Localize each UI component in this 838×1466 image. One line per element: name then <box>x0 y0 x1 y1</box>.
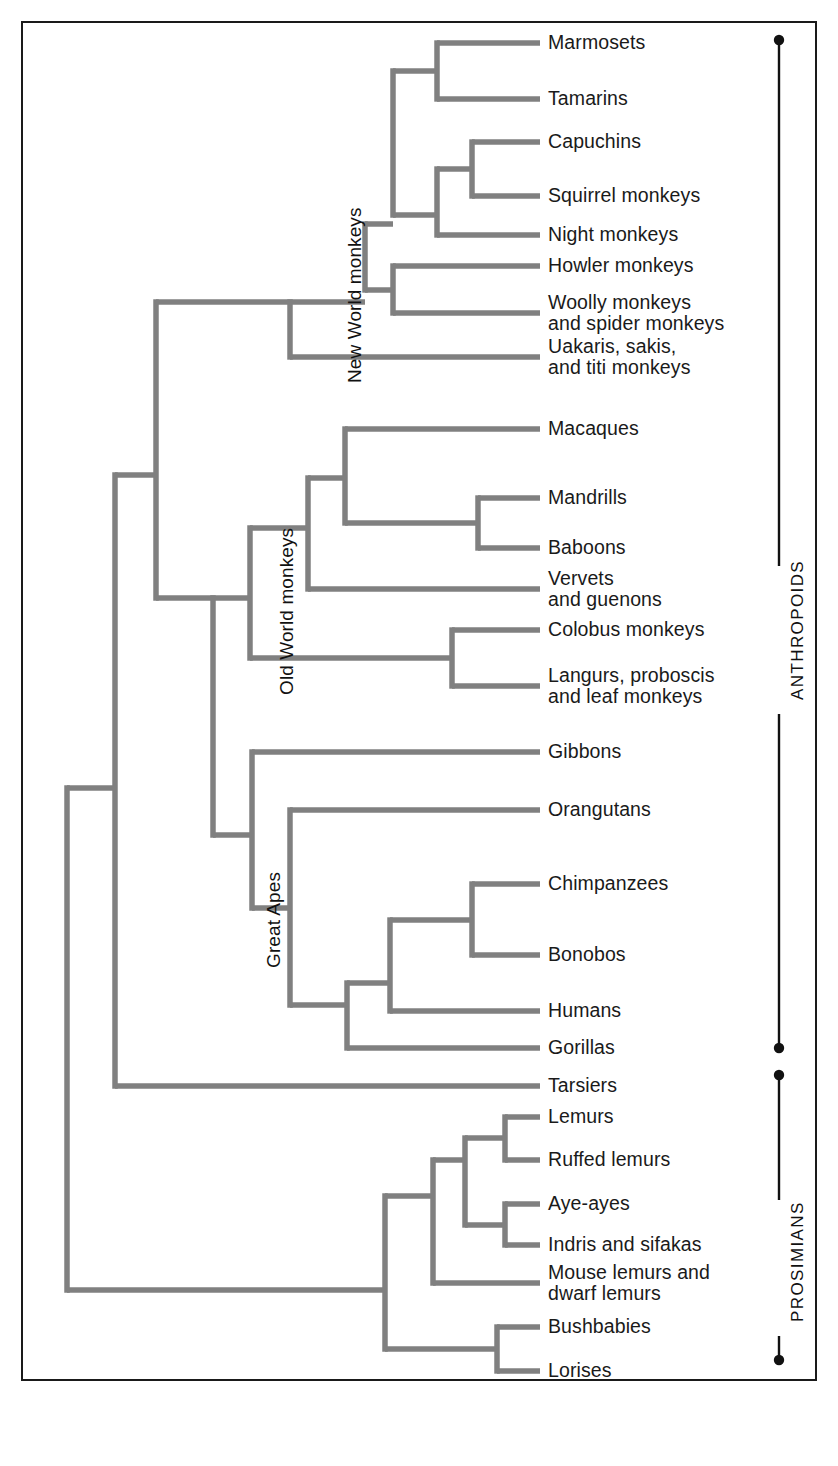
bracket-endpoint-dot-prosimians-top <box>774 1070 784 1080</box>
leaf-label-colobus-monkeys: Colobus monkeys <box>548 619 705 640</box>
leaf-label-bonobos: Bonobos <box>548 944 626 965</box>
leaf-label-baboons: Baboons <box>548 537 626 558</box>
bracket-label-gap-prosimians <box>770 1200 788 1336</box>
bracket-endpoint-dot-anthropoids-bottom <box>774 1043 784 1053</box>
leaf-label-bushbabies: Bushbabies <box>548 1316 651 1337</box>
phylogenetic-tree-lines <box>0 0 838 1466</box>
figure-page: MarmosetsTamarinsCapuchinsSquirrel monke… <box>0 0 838 1466</box>
leaf-label-macaques: Macaques <box>548 418 639 439</box>
leaf-label-squirrel-monkeys: Squirrel monkeys <box>548 185 700 206</box>
bracket-label-gap-anthropoids <box>770 566 788 714</box>
leaf-label-woolly-monkeys: Woolly monkeys and spider monkeys <box>548 292 724 334</box>
leaf-label-tamarins: Tamarins <box>548 88 628 109</box>
leaf-label-uakaris: Uakaris, sakis, and titi monkeys <box>548 336 691 378</box>
leaf-label-marmosets: Marmosets <box>548 32 645 53</box>
leaf-label-lorises: Lorises <box>548 1360 612 1381</box>
clade-label-old-world-monkeys: Old World monkeys <box>276 528 298 695</box>
leaf-label-mouse-lemurs: Mouse lemurs and dwarf lemurs <box>548 1262 710 1304</box>
leaf-label-lemurs: Lemurs <box>548 1106 614 1127</box>
leaf-label-chimpanzees: Chimpanzees <box>548 873 668 894</box>
leaf-label-orangutans: Orangutans <box>548 799 651 820</box>
leaf-label-tarsiers: Tarsiers <box>548 1075 617 1096</box>
leaf-label-night-monkeys: Night monkeys <box>548 224 678 245</box>
leaf-label-howler-monkeys: Howler monkeys <box>548 255 694 276</box>
bracket-label-prosimians: PROSIMIANS <box>788 1201 808 1322</box>
leaf-label-gorillas: Gorillas <box>548 1037 615 1058</box>
leaf-label-gibbons: Gibbons <box>548 741 621 762</box>
leaf-label-vervets: Vervets and guenons <box>548 568 662 610</box>
clade-label-new-world-monkeys: New World monkeys <box>344 207 366 383</box>
leaf-label-humans: Humans <box>548 1000 621 1021</box>
leaf-label-langurs: Langurs, proboscis and leaf monkeys <box>548 665 715 707</box>
bracket-endpoint-dot-anthropoids-top <box>774 35 784 45</box>
leaf-label-capuchins: Capuchins <box>548 131 641 152</box>
leaf-label-indris-sifakas: Indris and sifakas <box>548 1234 702 1255</box>
leaf-label-ruffed-lemurs: Ruffed lemurs <box>548 1149 670 1170</box>
clade-label-great-apes: Great Apes <box>263 872 285 968</box>
bracket-endpoint-dot-prosimians-bottom <box>774 1355 784 1365</box>
bracket-label-anthropoids: ANTHROPOIDS <box>788 560 808 700</box>
leaf-label-mandrills: Mandrills <box>548 487 627 508</box>
leaf-label-aye-ayes: Aye-ayes <box>548 1193 630 1214</box>
